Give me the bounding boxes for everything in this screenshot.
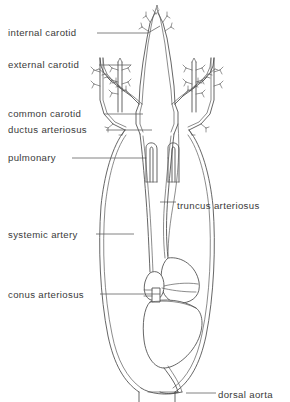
label-common-carotid: common carotid xyxy=(8,108,81,119)
label-conus-arteriosus: conus arteriosus xyxy=(8,289,84,300)
label-ductus-arteriosus: ductus arteriosus xyxy=(8,124,87,135)
label-internal-carotid: internal carotid xyxy=(8,27,77,38)
arterial-system-illustration: internal carotid external carotid common… xyxy=(0,0,290,402)
label-truncus-arteriosus: truncus arteriosus xyxy=(177,200,260,211)
label-pulmonary: pulmonary xyxy=(8,152,56,163)
anatomical-diagram: internal carotid external carotid common… xyxy=(0,0,290,402)
label-systemic-artery: systemic artery xyxy=(8,229,78,240)
label-external-carotid: external carotid xyxy=(8,59,79,70)
label-dorsal-aorta: dorsal aorta xyxy=(218,389,273,400)
